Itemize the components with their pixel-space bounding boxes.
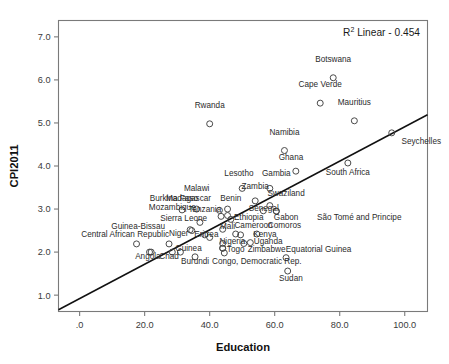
- data-point-label: Sierra Leone: [160, 214, 207, 223]
- r-squared-annotation: R2 Linear - 0.454: [343, 26, 420, 38]
- data-point-label: Burkina Faso: [150, 194, 199, 203]
- y-tick-label: 3.0: [38, 204, 51, 214]
- data-point-label: Niger: [169, 229, 189, 238]
- data-point-label: Benin: [220, 194, 241, 203]
- data-point-label: Senegal: [249, 204, 279, 213]
- x-tick-label: 100.0: [393, 320, 416, 330]
- data-point-label: Mali: [220, 222, 235, 231]
- data-point-label: Burundi: [181, 257, 209, 266]
- data-point-label: Zimbabwe: [248, 245, 286, 254]
- data-point-label: Sudan: [279, 274, 303, 283]
- data-point-label: Lesotho: [224, 169, 254, 178]
- y-tick-label: 2.0: [38, 247, 51, 257]
- data-point-label: South Africa: [326, 168, 371, 177]
- data-point-label: Seychelles: [401, 137, 441, 146]
- chart-canvas: .020.040.060.080.0100.0 1.02.03.04.05.06…: [0, 0, 449, 364]
- x-tick-label: 80.0: [331, 320, 349, 330]
- scatter-plot-chart: .020.040.060.080.0100.0 1.02.03.04.05.06…: [0, 0, 449, 364]
- y-tick-label: 4.0: [38, 161, 51, 171]
- x-tick-label: 40.0: [201, 320, 219, 330]
- data-point-label: Congo, Democratic Rep.: [212, 257, 302, 266]
- data-point-label: Ghana: [279, 153, 304, 162]
- data-point-label: Swaziland: [267, 189, 305, 198]
- x-tick-label: 60.0: [266, 320, 284, 330]
- data-point-label: Central African Republic: [81, 230, 169, 239]
- data-point-label: São Tomé and Principe: [317, 213, 402, 222]
- data-point-label: Rwanda: [195, 101, 225, 110]
- data-point-label: Zambia: [242, 182, 270, 191]
- data-point-label: Malawi: [184, 184, 210, 193]
- y-tick-label: 1.0: [38, 291, 51, 301]
- y-axis-title: CPI2011: [8, 145, 20, 188]
- data-point-label: Angola: [135, 252, 161, 261]
- data-point-label: Namibia: [269, 128, 299, 137]
- data-point-label: Botswana: [315, 55, 351, 64]
- data-point-label: Togo: [227, 245, 245, 254]
- data-point-label: Chad: [159, 252, 179, 261]
- x-axis-title: Education: [216, 341, 270, 353]
- y-tick-label: 6.0: [38, 75, 51, 85]
- x-tick-label: .0: [76, 320, 84, 330]
- data-point-label: Guinea: [175, 244, 202, 253]
- data-point-label: Equatorial Guinea: [286, 245, 352, 254]
- data-point-label: Gambia: [262, 169, 291, 178]
- y-tick-label: 5.0: [38, 118, 51, 128]
- x-tick-label: 20.0: [136, 320, 154, 330]
- data-point-label: Eritrea: [194, 230, 219, 239]
- data-point-label: Mauritius: [338, 98, 371, 107]
- chart-background: [0, 0, 449, 364]
- data-point-label: Cape Verde: [299, 80, 343, 89]
- y-tick-label: 7.0: [38, 32, 51, 42]
